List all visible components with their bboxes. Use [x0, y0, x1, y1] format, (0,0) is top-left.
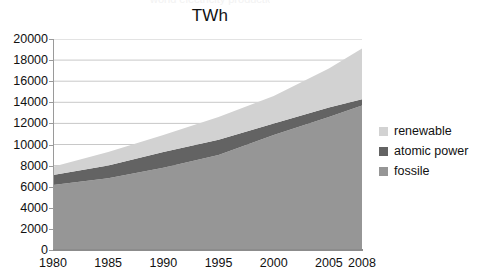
y-axis-labels: 0200040006000800010000120001400016000180…	[0, 0, 48, 279]
y-axis-tick-mark	[49, 102, 53, 103]
y-axis-tick-label: 18000	[2, 54, 48, 66]
y-axis-tick-label: 12000	[2, 117, 48, 129]
legend-item: fossile	[379, 161, 479, 181]
x-axis-tick-label: 1985	[78, 256, 138, 270]
y-axis-tick-label: 0	[2, 244, 48, 256]
x-axis-tick-label: 1995	[189, 256, 249, 270]
y-axis-tick-mark	[49, 123, 53, 124]
y-axis-tick-mark	[49, 187, 53, 188]
y-axis-tick-label: 10000	[2, 139, 48, 151]
y-axis-tick-mark	[49, 39, 53, 40]
legend-item: atomic power	[379, 141, 479, 161]
legend-swatch-icon	[379, 167, 388, 176]
y-axis-tick-mark	[49, 166, 53, 167]
y-axis-tick-label: 6000	[2, 181, 48, 193]
y-axis-line	[53, 39, 54, 251]
chart-container: world electricity production TWh 0200040…	[0, 0, 480, 279]
x-axis-line	[53, 249, 363, 251]
y-axis-tick-label: 14000	[2, 96, 48, 108]
legend-label: renewable	[394, 124, 452, 138]
cropped-chart-title: world electricity production	[150, 0, 270, 5]
y-axis-tick-mark	[49, 81, 53, 82]
y-axis-tick-label: 8000	[2, 160, 48, 172]
plot-area	[53, 39, 362, 250]
legend-label: atomic power	[394, 144, 468, 158]
stacked-area-plot	[53, 39, 362, 250]
y-axis-tick-label: 4000	[2, 202, 48, 214]
y-axis-tick-mark	[49, 208, 53, 209]
x-axis-tick-label: 1990	[133, 256, 193, 270]
x-axis-tick-label: 2008	[332, 256, 392, 270]
x-axis-tick-label: 1980	[23, 256, 83, 270]
x-axis-tick-label: 2000	[244, 256, 304, 270]
y-axis-tick-label: 2000	[2, 223, 48, 235]
y-axis-tick-mark	[49, 145, 53, 146]
chart-legend: renewableatomic powerfossile	[379, 121, 479, 181]
y-axis-tick-label: 16000	[2, 75, 48, 87]
legend-swatch-icon	[379, 127, 388, 136]
y-axis-tick-label: 20000	[2, 33, 48, 45]
chart-title: TWh	[150, 6, 270, 26]
legend-item: renewable	[379, 121, 479, 141]
y-axis-tick-mark	[49, 60, 53, 61]
y-axis-tick-mark	[49, 229, 53, 230]
y-axis-tick-mark	[49, 250, 53, 251]
legend-label: fossile	[394, 164, 429, 178]
legend-swatch-icon	[379, 147, 388, 156]
